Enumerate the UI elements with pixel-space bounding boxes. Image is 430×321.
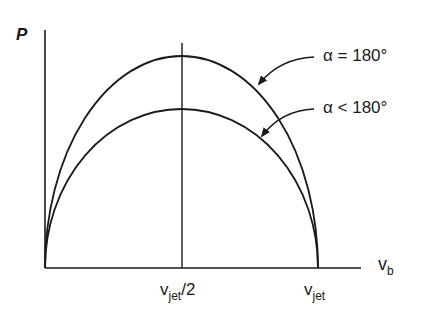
x-axis-label: vb: [378, 255, 394, 273]
tick-main: v: [160, 280, 169, 299]
tick-main: v: [304, 280, 313, 299]
x-label-main: v: [378, 254, 387, 274]
curve-label-alpha-180: α = 180°: [323, 47, 387, 64]
curve-label-alpha-less-180: α < 180°: [323, 99, 387, 116]
x-label-subscript: b: [387, 264, 394, 278]
x-tick-vjet-half: vjet/2: [160, 281, 195, 298]
tick-suffix: /2: [181, 280, 195, 299]
tick-subscript: jet: [169, 289, 182, 303]
arrow-to-inner-curve: [262, 109, 314, 136]
y-axis-label: P: [16, 26, 27, 43]
tick-subscript: jet: [313, 289, 326, 303]
x-tick-vjet: vjet: [304, 281, 325, 298]
arrow-to-outer-curve: [259, 57, 314, 84]
